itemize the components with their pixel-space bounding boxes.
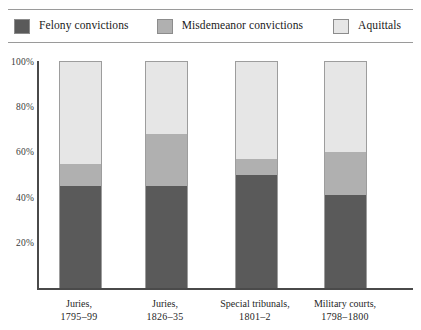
- bar-special-tribunals-1801-2: [235, 61, 278, 288]
- x-axis-line: [37, 288, 413, 290]
- y-tick-100: 100%: [4, 57, 34, 67]
- bar-juries-1795-99: [59, 61, 102, 288]
- bar-segment-felony: [60, 186, 101, 288]
- y-tick-60: 60%: [4, 147, 34, 157]
- bar-segment-acquittals: [236, 62, 277, 159]
- bar-segment-misdemeanor: [325, 152, 366, 195]
- plot-area: 100% 80% 60% 40% 20%: [0, 0, 421, 330]
- bar-segment-misdemeanor: [60, 164, 101, 187]
- y-tick-20: 20%: [4, 238, 34, 248]
- bar-segment-acquittals: [60, 62, 101, 164]
- bar-segment-felony: [146, 186, 187, 288]
- x-label-military-courts-1798-1800: Military courts, 1798–1800: [280, 297, 410, 323]
- bar-segment-felony: [325, 195, 366, 288]
- bar-segment-felony: [236, 175, 277, 288]
- bar-segment-acquittals: [146, 62, 187, 134]
- bar-segment-misdemeanor: [236, 159, 277, 175]
- y-axis-line: [37, 61, 39, 289]
- stacked-bar-chart-figure: Felony convictions Misdemeanor convictio…: [0, 0, 421, 330]
- x-label-line2: 1798–1800: [280, 310, 410, 323]
- y-axis-tick-labels: 100% 80% 60% 40% 20%: [0, 0, 34, 330]
- bar-segment-acquittals: [325, 62, 366, 152]
- bar-military-courts-1798-1800: [324, 61, 367, 288]
- y-tick-80: 80%: [4, 102, 34, 112]
- bar-segment-misdemeanor: [146, 134, 187, 186]
- bar-juries-1826-35: [145, 61, 188, 288]
- x-label-line1: Military courts,: [280, 297, 410, 310]
- y-tick-40: 40%: [4, 193, 34, 203]
